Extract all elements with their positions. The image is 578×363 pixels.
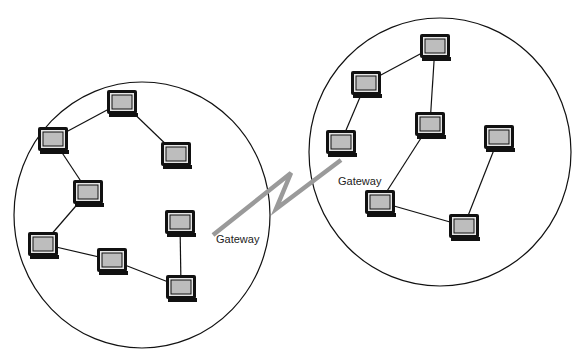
- computer-icon: [420, 34, 451, 61]
- gateway-computer-icon: [326, 130, 357, 157]
- computer-icon: [73, 180, 104, 207]
- gateway-computer-icon: [165, 210, 196, 237]
- diagram-canvas: [0, 0, 578, 363]
- computer-icon: [415, 112, 446, 139]
- wan-link: [213, 160, 341, 235]
- network-diagram: Gateway Gateway: [0, 0, 578, 363]
- computer-icon: [161, 142, 192, 169]
- computer-icon: [351, 71, 382, 98]
- computer-icon: [97, 248, 128, 275]
- computer-icon: [365, 190, 396, 217]
- left-gateway-label: Gateway: [216, 233, 259, 245]
- computer-icon: [38, 127, 69, 154]
- wan-zigzag-link: [213, 160, 341, 235]
- computer-icon: [449, 214, 480, 241]
- computer-icon: [107, 90, 138, 117]
- computer-icon: [166, 275, 197, 302]
- computer-icon: [28, 232, 59, 259]
- computer-icon: [484, 125, 515, 152]
- computers: [28, 34, 515, 302]
- right-gateway-label: Gateway: [338, 175, 381, 187]
